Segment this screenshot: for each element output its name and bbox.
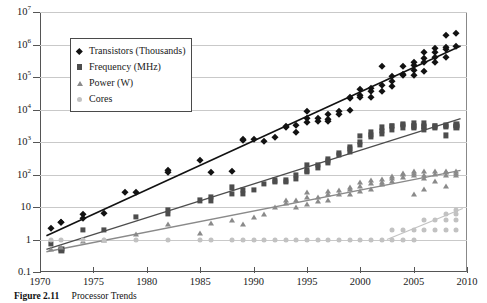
x-axis-label: 1975 <box>83 277 104 288</box>
y-axis-label: 105 <box>17 72 31 83</box>
data-point <box>411 124 416 129</box>
data-point <box>379 237 384 242</box>
data-point <box>432 217 437 222</box>
data-point <box>304 202 310 207</box>
data-point <box>379 125 384 130</box>
data-point <box>230 237 235 242</box>
data-point <box>443 168 449 173</box>
y-axis-label: 103 <box>17 137 31 148</box>
circle-marker <box>75 97 84 102</box>
legend-label: Transistors (Thousands) <box>89 46 186 56</box>
data-point <box>326 237 331 242</box>
data-point <box>197 230 203 235</box>
data-point <box>304 195 310 200</box>
y-axis-tick <box>33 45 40 46</box>
data-point <box>293 205 299 210</box>
data-point <box>357 179 363 184</box>
data-point <box>251 188 256 193</box>
y-axis-label: 10 <box>21 202 32 213</box>
y-axis-label: 102 <box>17 169 31 180</box>
data-point <box>432 227 437 232</box>
data-point <box>432 123 437 128</box>
data-point <box>304 162 309 167</box>
data-point <box>166 208 171 213</box>
data-point <box>454 217 459 222</box>
data-point <box>240 237 245 242</box>
data-point <box>304 169 309 174</box>
data-point <box>411 191 417 196</box>
data-point <box>347 144 352 149</box>
y-axis-label: 106 <box>17 39 31 50</box>
legend-label: Cores <box>89 94 112 104</box>
legend-label: Power (W) <box>89 78 133 88</box>
data-point <box>261 212 267 217</box>
data-point <box>336 188 342 193</box>
data-point <box>101 227 106 232</box>
data-point <box>421 173 427 178</box>
data-point <box>422 127 427 132</box>
data-point <box>347 149 352 154</box>
data-point <box>283 198 289 203</box>
data-point <box>251 237 256 242</box>
data-point <box>272 237 277 242</box>
legend-entry: Transistors (Thousands) <box>75 43 186 59</box>
data-point <box>443 227 448 232</box>
triangle-marker <box>75 81 84 86</box>
data-point <box>80 237 85 242</box>
data-point <box>432 168 438 173</box>
data-point <box>326 158 331 163</box>
data-point <box>283 178 288 183</box>
data-point <box>208 195 213 200</box>
legend-entry: Power (W) <box>75 75 186 91</box>
data-point <box>390 227 395 232</box>
data-point <box>357 189 363 194</box>
y-axis-tick <box>33 142 40 143</box>
data-point <box>272 205 278 210</box>
x-axis-label: 1995 <box>296 277 317 288</box>
data-point <box>133 231 139 236</box>
data-point <box>443 183 449 188</box>
data-point <box>262 237 267 242</box>
y-axis-tick <box>33 175 40 176</box>
data-point <box>422 217 427 222</box>
data-point <box>208 220 214 225</box>
data-point <box>443 212 448 217</box>
data-point <box>454 227 459 232</box>
caption-text: Processor Trends <box>72 291 137 301</box>
data-point <box>208 237 213 242</box>
data-point <box>453 171 459 176</box>
y-axis-tick <box>33 207 40 208</box>
data-point <box>336 237 341 242</box>
data-point <box>368 187 374 192</box>
data-point <box>48 247 54 252</box>
data-point <box>325 197 331 202</box>
data-point <box>411 227 416 232</box>
data-point <box>272 179 277 184</box>
data-point <box>389 178 395 183</box>
data-point <box>454 212 459 217</box>
figure-processor-trends: 0.1110102103104105106107 197019751980198… <box>0 0 487 303</box>
data-point <box>240 221 246 226</box>
data-point <box>240 188 245 193</box>
y-axis-tick <box>33 12 40 13</box>
data-point <box>59 237 64 242</box>
data-point <box>443 133 448 138</box>
data-point <box>358 134 363 139</box>
data-point <box>390 237 395 242</box>
x-axis-label: 1970 <box>30 277 51 288</box>
data-point <box>198 237 203 242</box>
x-axis-tick <box>467 267 468 273</box>
data-point <box>379 131 384 136</box>
data-point <box>368 135 373 140</box>
diamond-marker <box>75 49 84 54</box>
data-point <box>443 122 448 127</box>
data-point <box>422 227 427 232</box>
data-point <box>368 237 373 242</box>
data-point <box>283 237 288 242</box>
data-point <box>293 198 299 203</box>
data-point <box>368 177 374 182</box>
data-point <box>229 217 235 222</box>
x-axis-label: 2010 <box>457 277 478 288</box>
x-axis-label: 1990 <box>243 277 264 288</box>
y-axis-tick <box>33 110 40 111</box>
